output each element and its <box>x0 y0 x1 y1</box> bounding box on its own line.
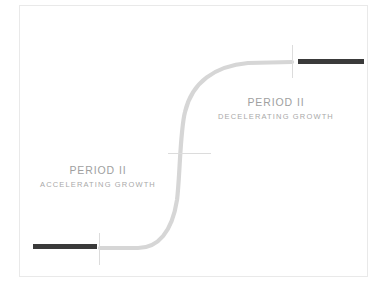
accelerating-growth-subtitle: ACCELERATING GROWTH <box>34 178 162 191</box>
s-curve-path <box>100 62 292 248</box>
end-vertical-tick <box>292 45 293 78</box>
accelerating-growth-label: PERIOD II ACCELERATING GROWTH <box>34 163 162 191</box>
start-plateau-bar <box>33 244 97 249</box>
decelerating-growth-title: PERIOD II <box>206 95 346 109</box>
decelerating-growth-subtitle: DECELERATING GROWTH <box>206 110 346 123</box>
end-plateau-bar <box>298 59 364 64</box>
slide-canvas: PERIOD II ACCELERATING GROWTH PERIOD II … <box>0 0 379 287</box>
decelerating-growth-label: PERIOD II DECELERATING GROWTH <box>206 95 346 123</box>
accelerating-growth-title: PERIOD II <box>34 163 162 177</box>
inflection-horizontal-tick <box>168 153 211 154</box>
start-vertical-tick <box>99 233 100 265</box>
